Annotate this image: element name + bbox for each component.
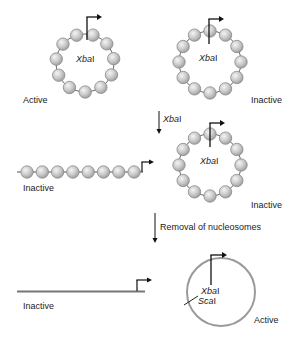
nucleosome-bead bbox=[105, 69, 117, 81]
nucleosome-bead bbox=[235, 159, 247, 171]
nucleosome-bead bbox=[113, 166, 125, 178]
nucleosome-bead bbox=[51, 166, 63, 178]
nucleosome-bead bbox=[235, 56, 247, 68]
nucleosome-bead bbox=[52, 69, 64, 81]
nucleosome-bead bbox=[188, 132, 200, 144]
nucleosome-bead bbox=[57, 38, 69, 50]
bottom-left-state-label: Inactive bbox=[23, 301, 54, 311]
nucleosome-bead bbox=[231, 143, 243, 155]
nucleosome-bead bbox=[177, 174, 189, 186]
nucleosome-bead bbox=[70, 29, 82, 41]
nucleosome-bead bbox=[219, 29, 231, 41]
nucleosome-bead bbox=[97, 166, 109, 178]
nucleosome-bead bbox=[204, 190, 216, 202]
step2-label: Removal of nucleosomes bbox=[160, 222, 262, 232]
nucleosome-bead bbox=[21, 166, 33, 178]
step2-down-arrow bbox=[153, 213, 158, 243]
nucleosome-bead bbox=[231, 40, 243, 52]
bottom-right-transcription-arrow bbox=[210, 252, 227, 285]
top-right-state-label: Inactive bbox=[251, 95, 282, 105]
bottom-right-state-label: Active bbox=[254, 315, 279, 325]
nucleosome-bead bbox=[188, 83, 200, 95]
nucleosome-bead bbox=[219, 186, 231, 198]
nucleosome-bead bbox=[79, 86, 91, 98]
nucleosome-bead bbox=[63, 81, 75, 93]
nucleosome-bead bbox=[67, 166, 79, 178]
nucleosome-bead bbox=[204, 87, 216, 99]
top-left-state-label: Active bbox=[23, 95, 48, 105]
mid-right-state-label: Inactive bbox=[251, 200, 282, 210]
nucleosome-bead bbox=[188, 29, 200, 41]
bottom-right-circular-dna bbox=[187, 258, 255, 326]
mid-right-xbai-label: XbaI bbox=[199, 156, 219, 166]
nucleosome-bead bbox=[188, 186, 200, 198]
nucleosome-bead bbox=[36, 166, 48, 178]
step1-down-arrow bbox=[157, 111, 162, 134]
nucleosome-bead bbox=[177, 71, 189, 83]
top-right-xbai-label: XbaI bbox=[198, 53, 218, 63]
mid-left-linear-chromatin bbox=[17, 166, 143, 178]
nucleosome-bead bbox=[231, 174, 243, 186]
nucleosome-bead bbox=[204, 25, 216, 37]
nucleosome-bead bbox=[107, 52, 119, 64]
nucleosome-bead bbox=[231, 71, 243, 83]
nucleosome-bead bbox=[101, 38, 113, 50]
nucleosome-bead bbox=[219, 132, 231, 144]
bottom-right-xbai-label: XbaI bbox=[200, 286, 220, 296]
scai-site-tick bbox=[184, 296, 198, 305]
nucleosome-bead bbox=[128, 166, 140, 178]
nucleosome-bead bbox=[219, 83, 231, 95]
bottom-right-scai-label: ScaI bbox=[198, 296, 216, 306]
top-left-xbai-label: XbaI bbox=[75, 54, 95, 64]
nucleosome-bead bbox=[82, 166, 94, 178]
nucleosome-bead bbox=[95, 81, 107, 93]
nucleosome-bead bbox=[173, 56, 185, 68]
nucleosome-diagram: XbaI Active XbaI Inactive XbaI Inactive … bbox=[0, 0, 300, 337]
step1-enzyme-label: XbaI bbox=[162, 114, 182, 124]
mid-left-transcription-arrow bbox=[141, 160, 154, 173]
bottom-left-transcription-arrow bbox=[136, 278, 152, 292]
nucleosome-bead bbox=[87, 29, 99, 41]
nucleosome-bead bbox=[50, 53, 62, 65]
nucleosome-bead bbox=[177, 40, 189, 52]
nucleosome-bead bbox=[173, 159, 185, 171]
nucleosome-bead bbox=[177, 143, 189, 155]
mid-left-state-label: Inactive bbox=[23, 183, 54, 193]
